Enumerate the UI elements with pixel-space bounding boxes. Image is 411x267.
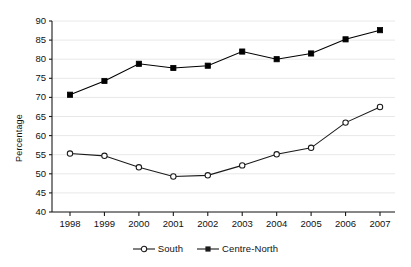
data-point-marker	[343, 37, 348, 42]
data-point-marker	[274, 152, 279, 157]
data-point-marker	[343, 120, 348, 125]
legend-label: Centre-North	[222, 243, 278, 254]
data-point-marker	[377, 28, 382, 33]
data-point-marker	[205, 63, 210, 68]
gridlines	[52, 21, 395, 212]
data-point-marker	[377, 104, 382, 109]
data-point-marker	[205, 173, 210, 178]
data-point-marker	[136, 61, 141, 66]
chart-legend: SouthCentre-North	[0, 243, 411, 254]
data-point-marker	[274, 57, 279, 62]
legend-item-south[interactable]: South	[133, 243, 183, 254]
series-line-south	[70, 107, 380, 177]
data-point-marker	[67, 92, 72, 97]
data-point-marker	[308, 145, 313, 150]
legend-label: South	[158, 243, 183, 254]
data-point-marker	[240, 163, 245, 168]
data-point-marker	[171, 65, 176, 70]
data-point-marker	[102, 153, 107, 158]
legend-item-centre-north[interactable]: Centre-North	[197, 243, 278, 254]
data-point-marker	[136, 165, 141, 170]
legend-circle-marker-icon	[133, 244, 155, 254]
data-point-marker	[309, 51, 314, 56]
data-point-marker	[67, 151, 72, 156]
data-series-layer	[67, 28, 382, 180]
axis-tick-marks	[49, 21, 380, 216]
data-point-marker	[102, 78, 107, 83]
data-point-marker	[171, 174, 176, 179]
legend-square-marker-icon	[197, 244, 219, 254]
plot-area	[0, 0, 411, 267]
data-point-marker	[240, 49, 245, 54]
chart-container: Percentage 4045505560657075808590 199819…	[0, 0, 411, 267]
